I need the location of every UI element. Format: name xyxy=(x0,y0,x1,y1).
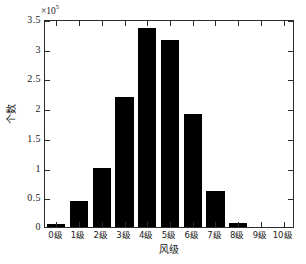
y-tick-mark-mirror xyxy=(288,199,293,200)
x-tick-mark xyxy=(56,222,57,227)
y-tick-mark xyxy=(45,140,50,141)
y-tick-mark-mirror xyxy=(288,80,293,81)
x-tick-mark-mirror xyxy=(193,21,194,26)
y-axis-exponent-base: ×10 xyxy=(41,6,56,16)
y-tick-mark-mirror xyxy=(288,110,293,111)
x-tick-mark-mirror xyxy=(261,21,262,26)
x-tick-label-4级: 4级 xyxy=(139,230,153,241)
x-tick-mark xyxy=(170,222,171,227)
y-axis-exponent-label: ×105 xyxy=(41,2,59,17)
bar-chart-figure: ×105 00.511.522.533.5 0级1级2级3级4级5级6级7级8级… xyxy=(0,0,306,264)
x-tick-mark xyxy=(261,222,262,227)
y-tick-mark xyxy=(45,51,50,52)
x-tick-mark-mirror xyxy=(79,21,80,26)
x-tick-mark-mirror xyxy=(56,21,57,26)
x-tick-label-6级: 6级 xyxy=(185,230,199,241)
y-tick-label: 0.5 xyxy=(1,193,41,203)
bar-2级 xyxy=(93,168,111,227)
x-tick-label-2级: 2级 xyxy=(94,230,108,241)
x-tick-mark xyxy=(79,222,80,227)
x-tick-label-0级: 0级 xyxy=(48,230,62,241)
y-tick-mark-mirror xyxy=(288,170,293,171)
y-tick-mark xyxy=(45,21,50,22)
y-tick-mark-mirror xyxy=(288,51,293,52)
x-tick-mark xyxy=(147,222,148,227)
x-tick-mark xyxy=(238,222,239,227)
x-tick-mark-mirror xyxy=(215,21,216,26)
x-tick-mark xyxy=(102,222,103,227)
bar-5级 xyxy=(161,40,179,227)
x-tick-mark xyxy=(215,222,216,227)
x-axis-tick-labels: 0级1级2级3级4级5级6级7级8级9级10级 xyxy=(44,230,294,244)
x-tick-mark xyxy=(193,222,194,227)
x-tick-label-10级: 10级 xyxy=(273,230,293,241)
y-tick-label: 1.5 xyxy=(1,134,41,144)
y-tick-label: 3.5 xyxy=(1,15,41,25)
bars-layer xyxy=(45,21,293,227)
y-tick-label: 2.5 xyxy=(1,74,41,84)
x-axis-title: 风级 xyxy=(44,244,294,256)
y-axis-exponent-power: 5 xyxy=(56,3,59,10)
x-tick-mark xyxy=(125,222,126,227)
y-tick-mark xyxy=(45,110,50,111)
y-tick-mark-mirror xyxy=(288,140,293,141)
x-tick-label-8级: 8级 xyxy=(230,230,244,241)
x-tick-mark-mirror xyxy=(238,21,239,26)
y-tick-label: 3 xyxy=(1,45,41,55)
y-tick-mark xyxy=(45,199,50,200)
x-tick-mark-mirror xyxy=(125,21,126,26)
bar-4级 xyxy=(138,28,156,227)
x-tick-mark-mirror xyxy=(170,21,171,26)
x-tick-mark-mirror xyxy=(284,21,285,26)
x-tick-mark xyxy=(284,222,285,227)
x-tick-label-3级: 3级 xyxy=(116,230,130,241)
x-tick-label-9级: 9级 xyxy=(253,230,267,241)
y-tick-mark xyxy=(45,170,50,171)
y-tick-label: 1 xyxy=(1,164,41,174)
bar-3级 xyxy=(115,97,133,227)
x-tick-mark-mirror xyxy=(102,21,103,26)
y-tick-mark-mirror xyxy=(288,21,293,22)
x-tick-label-7级: 7级 xyxy=(207,230,221,241)
y-axis-title: 个数 xyxy=(6,94,18,134)
x-tick-label-5级: 5级 xyxy=(162,230,176,241)
plot-area xyxy=(44,20,294,228)
y-tick-label: 0 xyxy=(1,222,41,232)
y-tick-mark xyxy=(45,80,50,81)
bar-6级 xyxy=(184,114,202,228)
x-tick-mark-mirror xyxy=(147,21,148,26)
x-tick-label-1级: 1级 xyxy=(71,230,85,241)
